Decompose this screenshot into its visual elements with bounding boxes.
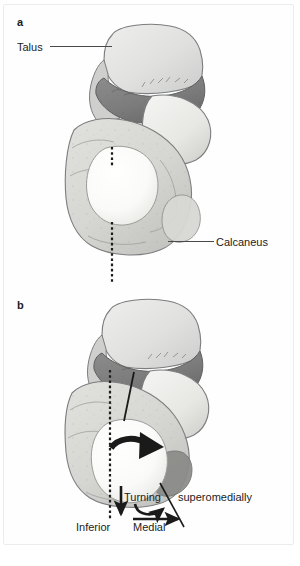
leader-line-talus xyxy=(50,46,112,47)
bone-illustration xyxy=(0,0,300,566)
panel-a-artwork xyxy=(65,24,210,283)
label-medial: Medial xyxy=(133,521,165,533)
label-turning: Turning xyxy=(124,491,161,503)
anatomy-figure: a b Talus Calcaneus Turning superomedial… xyxy=(0,0,300,566)
label-calcaneus: Calcaneus xyxy=(216,236,268,248)
talus-trochlea xyxy=(104,24,203,93)
calcaneal-articular-facet xyxy=(87,146,158,225)
talus-trochlea-b xyxy=(102,299,201,368)
label-inferior: Inferior xyxy=(76,521,110,533)
label-talus: Talus xyxy=(17,41,43,53)
leader-line-calcaneus xyxy=(168,241,214,242)
label-superomedially: superomedially xyxy=(178,491,252,503)
panel-letter-b: b xyxy=(17,299,24,311)
panel-letter-a: a xyxy=(17,16,23,28)
calcaneus-sustentaculum xyxy=(162,195,200,242)
bottom-caption xyxy=(6,551,294,563)
